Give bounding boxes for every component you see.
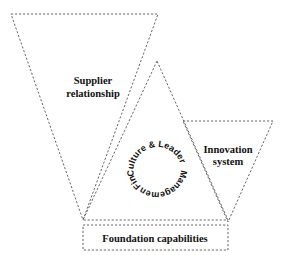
innovation-system-shape — [183, 121, 273, 222]
supplier-label-line1: Supplier — [74, 75, 113, 86]
supplier-label-line2: relationship — [66, 88, 120, 99]
foundation-label: Foundation capabilities — [102, 233, 207, 244]
management-path: Management — [0, 0, 189, 201]
innovation-label-line2: system — [213, 156, 244, 167]
capability-diagram: Supplier relationship Innovation system … — [0, 0, 285, 260]
ring-text-management: Management — [0, 0, 189, 201]
innovation-label-line1: Innovation — [203, 144, 252, 155]
